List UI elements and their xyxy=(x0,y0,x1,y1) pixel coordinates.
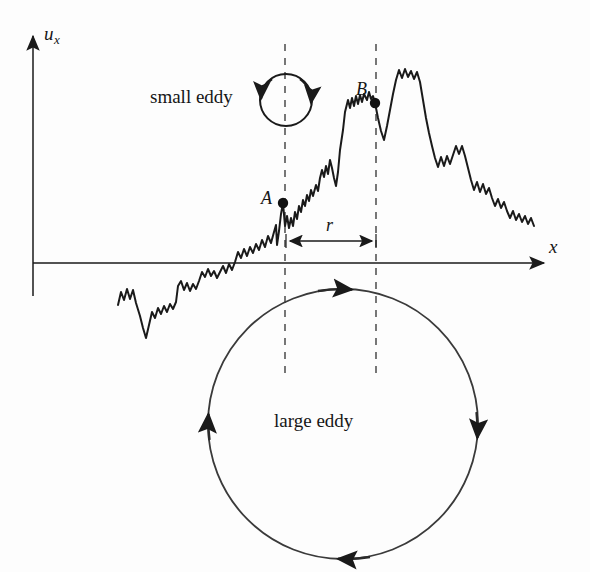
y-axis-label: ux xyxy=(44,23,60,48)
small-eddy-label: small eddy xyxy=(150,86,233,108)
diagram-canvas xyxy=(0,0,590,572)
point-b-marker xyxy=(370,98,380,108)
large-eddy-label: large eddy xyxy=(274,410,353,432)
large-eddy-arrow-bottom xyxy=(338,557,370,559)
point-b-label: B xyxy=(356,79,367,100)
large-eddy-arrow-right xyxy=(477,412,478,438)
large-eddy-arrow-top xyxy=(318,289,352,291)
large-eddy-arrow-left xyxy=(208,414,209,440)
y-axis-label-subscript: x xyxy=(54,32,60,47)
x-axis-label: x xyxy=(549,236,557,258)
small-eddy-arrow-right xyxy=(300,79,311,103)
turbulence-eddy-diagram: ux x small eddy large eddy A B r xyxy=(0,0,590,572)
turbulent-signal-trace xyxy=(118,69,534,338)
y-axis-label-base: u xyxy=(44,23,54,44)
point-a-marker xyxy=(278,198,288,208)
point-a-label: A xyxy=(261,188,272,209)
separation-label: r xyxy=(326,215,333,236)
